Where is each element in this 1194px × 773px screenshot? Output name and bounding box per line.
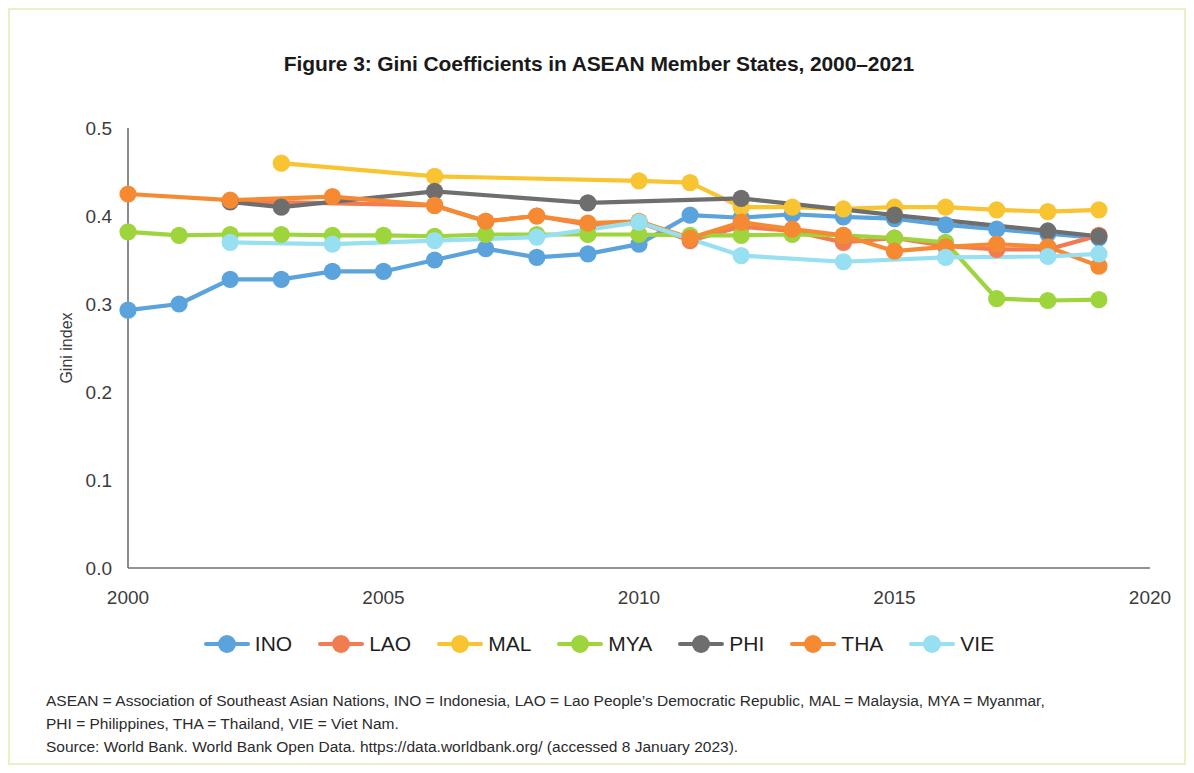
data-point [324, 263, 341, 280]
data-point [579, 245, 596, 262]
data-point [579, 214, 596, 231]
data-point [119, 302, 136, 319]
data-point [682, 174, 699, 191]
data-point [324, 188, 341, 205]
y-tick-label: 0.4 [86, 206, 113, 227]
legend-item-vie[interactable]: VIE [909, 632, 994, 656]
data-point [630, 172, 647, 189]
data-point [222, 234, 239, 251]
y-tick-label: 0.0 [86, 558, 112, 579]
legend-label: MYA [608, 632, 652, 656]
data-point [988, 221, 1005, 238]
legend-marker-icon [790, 634, 836, 654]
legend-marker-icon [678, 634, 724, 654]
data-point [784, 199, 801, 216]
data-point [630, 214, 647, 231]
data-point [528, 207, 545, 224]
data-point [988, 201, 1005, 218]
x-tick-label: 2000 [107, 587, 149, 608]
data-point [273, 226, 290, 243]
data-point [1090, 245, 1107, 262]
figure-notes: ASEAN = Association of Southeast Asian N… [46, 690, 1166, 759]
data-point [835, 200, 852, 217]
legend-label: INO [255, 632, 292, 656]
data-point [273, 271, 290, 288]
data-point [988, 236, 1005, 253]
data-point [1039, 203, 1056, 220]
y-tick-label: 0.2 [86, 382, 112, 403]
data-point [886, 243, 903, 260]
data-point [733, 214, 750, 231]
legend-label: PHI [729, 632, 764, 656]
legend-label: LAO [369, 632, 411, 656]
data-point [937, 249, 954, 266]
data-point [937, 199, 954, 216]
data-point [477, 213, 494, 230]
legend-item-mal[interactable]: MAL [437, 632, 531, 656]
y-tick-label: 0.1 [86, 470, 112, 491]
data-point [1090, 291, 1107, 308]
data-point [733, 190, 750, 207]
data-point [119, 185, 136, 202]
legend-marker-icon [557, 634, 603, 654]
data-point [1039, 248, 1056, 265]
series-group [119, 155, 1107, 319]
data-point [273, 199, 290, 216]
data-point [426, 168, 443, 185]
data-point [426, 197, 443, 214]
data-point [937, 216, 954, 233]
y-axis-title: Gini index [58, 312, 75, 383]
legend-item-phi[interactable]: PHI [678, 632, 764, 656]
legend-item-ino[interactable]: INO [204, 632, 292, 656]
data-point [119, 223, 136, 240]
data-point [222, 192, 239, 209]
notes-line-3: Source: World Bank. World Bank Open Data… [46, 736, 1166, 759]
data-point [988, 290, 1005, 307]
figure-frame: Figure 3: Gini Coefficients in ASEAN Mem… [8, 8, 1186, 765]
legend-marker-icon [318, 634, 364, 654]
data-point [835, 253, 852, 270]
data-point [682, 229, 699, 246]
data-point [1039, 222, 1056, 239]
legend-label: THA [841, 632, 883, 656]
data-point [426, 232, 443, 249]
data-point [324, 236, 341, 253]
data-point [222, 271, 239, 288]
x-tick-label: 2020 [1129, 587, 1171, 608]
data-point [528, 249, 545, 266]
notes-line-2: PHI = Philippines, THA = Thailand, VIE =… [46, 713, 1166, 736]
data-point [579, 194, 596, 211]
data-point [682, 207, 699, 224]
data-point [886, 207, 903, 224]
data-point [375, 227, 392, 244]
legend-label: MAL [488, 632, 531, 656]
data-point [273, 155, 290, 172]
y-tick-label: 0.3 [86, 294, 112, 315]
data-point [1039, 292, 1056, 309]
data-point [784, 221, 801, 238]
chart-legend: INOLAOMALMYAPHITHAVIE [10, 632, 1188, 656]
data-point [1090, 228, 1107, 245]
x-tick-label: 2010 [618, 587, 660, 608]
data-point [1090, 201, 1107, 218]
x-tick-label: 2015 [873, 587, 915, 608]
y-tick-label: 0.5 [86, 118, 112, 139]
data-point [835, 227, 852, 244]
data-point [528, 229, 545, 246]
legend-marker-icon [437, 634, 483, 654]
data-point [375, 263, 392, 280]
data-point [171, 227, 188, 244]
x-tick-label: 2005 [362, 587, 404, 608]
notes-line-1: ASEAN = Association of Southeast Asian N… [46, 690, 1166, 713]
legend-marker-icon [909, 634, 955, 654]
legend-item-lao[interactable]: LAO [318, 632, 411, 656]
data-point [171, 295, 188, 312]
legend-item-tha[interactable]: THA [790, 632, 883, 656]
legend-item-mya[interactable]: MYA [557, 632, 652, 656]
legend-label: VIE [960, 632, 994, 656]
data-point [733, 247, 750, 264]
data-point [426, 251, 443, 268]
legend-marker-icon [204, 634, 250, 654]
